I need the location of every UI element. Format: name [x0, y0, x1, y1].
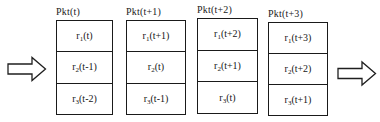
packet-cell: r1(t+1) [127, 21, 185, 52]
diagram-canvas: Pkt(t) r1(t) r2(t-1) r3(t-2) Pkt(t+1) r1… [0, 0, 380, 122]
packet-cell: r2(t) [127, 52, 185, 83]
packet-cell-argument: (t+1) [221, 60, 241, 71]
packet-cell: r3(t-1) [127, 84, 185, 114]
packet-label: Pkt(t+1) [126, 6, 161, 17]
packet-label: Pkt(t+2) [197, 4, 232, 15]
packet-cell-argument: (t) [155, 61, 164, 72]
packet-cell-text: r2(t) [148, 62, 164, 72]
packet-cell-text: r3(t+1) [285, 95, 312, 105]
packet-cell: r3(t+1) [269, 85, 327, 115]
packet-cell-argument: (t+2) [291, 63, 311, 74]
packet-cell-argument: (t-2) [79, 93, 97, 104]
packet-cell: r3(t) [198, 82, 257, 113]
packet-box: r1(t+3) r2(t+2) r3(t+1) [268, 22, 328, 116]
output-arrow [337, 60, 377, 91]
packet-cell-text: r1(t+3) [285, 33, 312, 43]
packet-cell: r3(t-2) [57, 84, 112, 114]
packet-cell-argument: (t-1) [151, 93, 169, 104]
packet-label: Pkt(t) [56, 6, 80, 17]
packet-cell-text: r2(t-1) [72, 62, 97, 72]
packet-box: r1(t) r2(t-1) r3(t-2) [56, 20, 113, 115]
packet-cell-text: r2(t+1) [214, 61, 241, 71]
packet-cell: r2(t+2) [269, 54, 327, 85]
input-arrow [7, 56, 47, 86]
packet-cell-argument: (t+1) [291, 94, 311, 105]
packet-cell-text: r3(t) [219, 93, 235, 103]
packet-cell-text: r1(t+2) [214, 29, 241, 39]
packet-cell-text: r2(t+2) [285, 64, 312, 74]
packet-cell: r1(t) [57, 21, 112, 52]
packet-cell-text: r1(t) [76, 31, 92, 41]
packet-box: r1(t+1) r2(t) r3(t-1) [126, 20, 186, 115]
packet-cell-argument: (t+2) [221, 28, 241, 39]
packet-cell: r1(t+2) [198, 19, 257, 51]
packet-cell-argument: (t+1) [149, 30, 169, 41]
packet-cell: r1(t+3) [269, 23, 327, 54]
packet-cell-text: r3(t-2) [72, 94, 97, 104]
packet-cell-argument: (t) [226, 92, 235, 103]
packet-cell-text: r1(t+1) [143, 31, 170, 41]
packet-cell: r2(t+1) [198, 51, 257, 83]
packet-cell-argument: (t-1) [79, 61, 97, 72]
packet-cell-argument: (t) [83, 30, 92, 41]
packet-cell: r2(t-1) [57, 52, 112, 83]
packet-box: r1(t+2) r2(t+1) r3(t) [197, 18, 258, 114]
packet-cell-text: r3(t-1) [144, 94, 169, 104]
packet-cell-argument: (t+3) [291, 32, 311, 43]
packet-label: Pkt(t+3) [268, 8, 303, 19]
